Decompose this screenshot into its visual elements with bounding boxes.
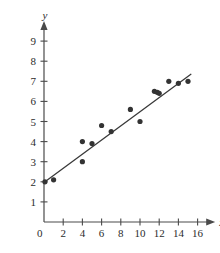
x-tick-label: 14 (173, 227, 185, 239)
y-tick-label: 1 (31, 196, 37, 208)
data-point (157, 91, 162, 96)
y-tick-label: 2 (31, 176, 37, 188)
axes-group (40, 21, 215, 226)
tick-labels-group: 0246810121416123456789 (31, 35, 204, 239)
data-point (80, 139, 85, 144)
ticks-group (41, 41, 198, 225)
data-point (185, 79, 190, 84)
scatter-plot-figure: 0246810121416123456789 xy (0, 0, 220, 253)
best-fit-line (45, 74, 191, 182)
data-point (166, 79, 171, 84)
x-tick-label: 8 (118, 227, 124, 239)
data-point (176, 81, 181, 86)
x-tick-label: 4 (80, 227, 86, 239)
data-point (137, 119, 142, 124)
data-point (109, 129, 114, 134)
y-tick-label: 8 (31, 55, 37, 67)
data-points-group (42, 79, 190, 185)
x-tick-label: 12 (154, 227, 165, 239)
x-tick-label: 2 (60, 227, 66, 239)
x-axis-arrowhead (206, 218, 215, 225)
y-tick-label: 6 (31, 95, 37, 107)
regression-line (45, 74, 191, 182)
data-point (128, 107, 133, 112)
y-axis-arrowhead (40, 21, 47, 30)
plot-canvas: 0246810121416123456789 xy (0, 0, 220, 253)
x-tick-label: 0 (37, 227, 43, 239)
x-tick-label: 10 (135, 227, 147, 239)
y-tick-label: 9 (31, 35, 37, 47)
y-axis-label: y (42, 9, 48, 21)
data-point (42, 179, 47, 184)
data-point (51, 177, 56, 182)
x-tick-label: 16 (192, 227, 204, 239)
x-axis-label: x (218, 216, 220, 228)
y-tick-label: 5 (31, 116, 37, 128)
x-tick-label: 6 (99, 227, 105, 239)
y-tick-label: 7 (31, 75, 37, 87)
data-point (99, 123, 104, 128)
y-tick-label: 3 (31, 156, 37, 168)
data-point (80, 159, 85, 164)
data-point (89, 141, 94, 146)
y-tick-label: 4 (31, 136, 37, 148)
